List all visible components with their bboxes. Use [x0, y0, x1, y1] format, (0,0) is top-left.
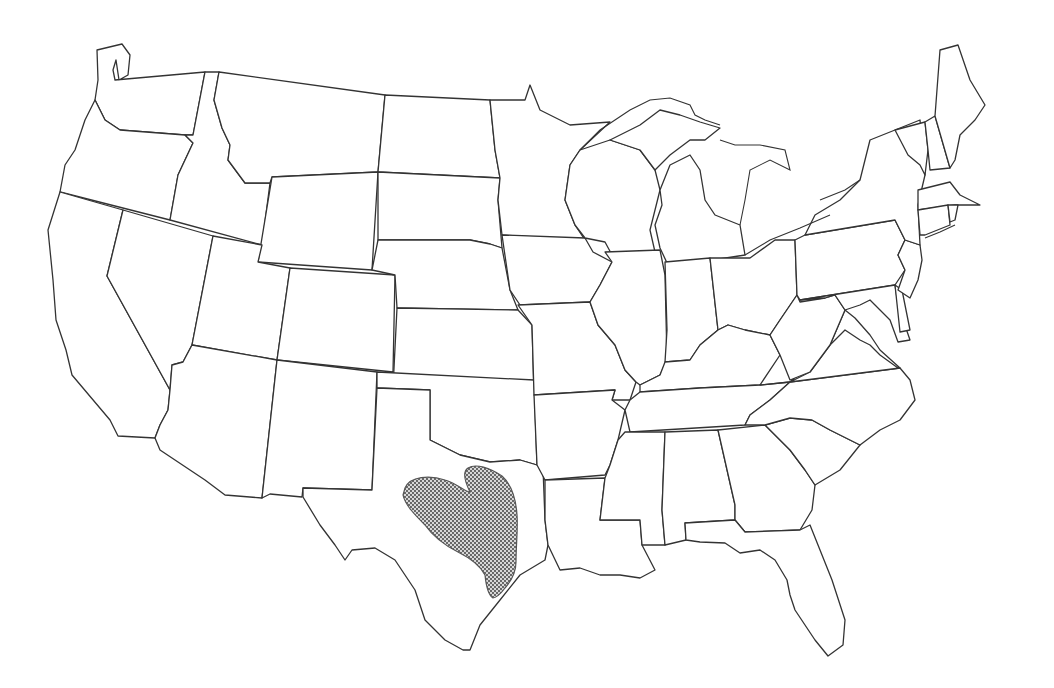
state-north-dakota: [378, 95, 500, 178]
state-south-dakota: [378, 172, 502, 248]
state-connecticut: [918, 205, 950, 235]
state-florida: [685, 520, 845, 656]
state-colorado: [277, 268, 395, 372]
us-outline-map: [0, 0, 1054, 688]
state-montana: [214, 72, 385, 183]
state-rhode-island: [948, 205, 958, 222]
lake-huron-shore: [720, 140, 790, 225]
state-washington: [95, 44, 205, 135]
state-new-mexico: [262, 360, 377, 498]
state-arizona: [155, 345, 277, 498]
state-wyoming: [258, 172, 378, 270]
state-michigan-lower: [655, 155, 745, 265]
